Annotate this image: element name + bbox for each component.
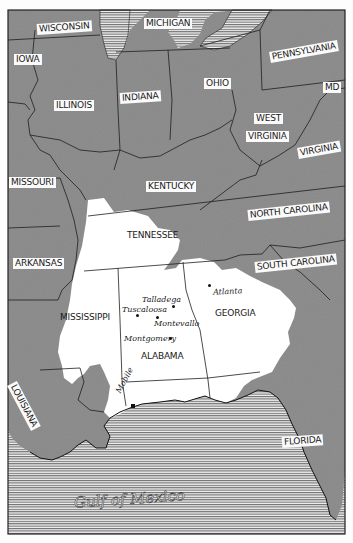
state-label-tennessee: TENNESSEE	[125, 230, 180, 241]
state-label-illinois: ILLINOIS	[54, 100, 94, 111]
city-marker-mobile	[131, 404, 135, 408]
state-label-georgia: GEORGIA	[213, 308, 257, 319]
state-label-ohio: OHIO	[204, 78, 231, 89]
city-marker-montgomery	[169, 337, 172, 340]
state-label-mississippi: MISSISSIPPI	[58, 312, 112, 323]
city-label-montevallo: Montevallo	[154, 319, 199, 328]
state-label-west-virginia-line2: VIRGINIA	[246, 131, 289, 142]
map-canvas	[0, 0, 353, 543]
state-label-iowa: IOWA	[14, 54, 42, 65]
city-label-atlanta: Atlanta	[213, 286, 243, 297]
state-label-arkansas: ARKANSAS	[13, 258, 64, 269]
state-label-west-virginia-line1: WEST	[254, 113, 283, 124]
state-label-alabama: ALABAMA	[139, 351, 185, 362]
state-label-missouri: MISSOURI	[9, 177, 56, 188]
city-marker-atlanta	[208, 284, 211, 287]
city-label-tuscaloosa: Tuscaloosa	[122, 305, 167, 314]
city-label-talladega: Talladega	[142, 295, 181, 304]
state-label-michigan: MICHIGAN	[144, 18, 192, 29]
city-marker-tuscaloosa	[136, 314, 139, 317]
city-marker-talladega	[172, 305, 175, 308]
state-label-kentucky: KENTUCKY	[146, 181, 196, 192]
state-label-maryland: MD	[323, 82, 341, 93]
